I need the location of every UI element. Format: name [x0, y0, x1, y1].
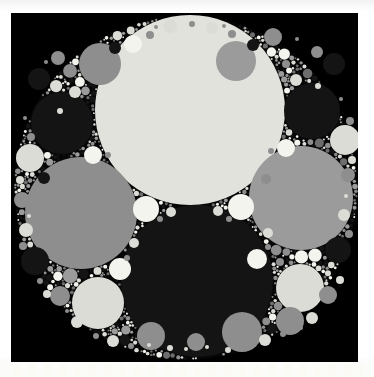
gasket-circle-small	[30, 172, 35, 177]
gasket-circle-small	[163, 352, 170, 359]
gasket-circle-small	[118, 328, 120, 330]
gasket-circle	[44, 60, 48, 64]
gasket-circle-small	[340, 121, 342, 123]
gasket-circle-small	[255, 229, 257, 231]
gasket-circle-small	[276, 66, 280, 70]
gasket-circle-small	[155, 19, 157, 21]
gasket-circle-small	[346, 164, 349, 167]
gasket-circle-small	[296, 135, 299, 138]
gasket-circle-small	[98, 141, 100, 143]
gasket-circle-small	[29, 141, 31, 143]
gasket-circle-small	[24, 143, 26, 145]
gasket-circle-small	[104, 337, 107, 340]
gasket-circle	[51, 51, 65, 65]
gasket-circle-small	[271, 334, 273, 336]
gasket-circle-small	[245, 187, 248, 190]
gasket-circle	[244, 344, 248, 348]
gasket-circle-small	[124, 308, 126, 310]
gasket-circle-small	[135, 226, 139, 230]
gasket-circle	[284, 83, 340, 139]
gasket-circle-small	[281, 76, 287, 82]
gasket-circle-small	[118, 283, 121, 286]
gasket-circle-small	[244, 27, 247, 30]
gasket-circle-small	[70, 309, 73, 312]
gasket-circle-small	[124, 346, 126, 348]
gasket-circle-small	[224, 206, 228, 210]
gasket-circle	[344, 194, 348, 198]
gasket-circle-small	[280, 59, 282, 61]
gasket-circle-small	[26, 184, 30, 188]
gasket-circle-small	[99, 145, 101, 147]
gasket-circle-small	[268, 308, 270, 310]
gasket-circle	[104, 236, 114, 246]
gasket-circle-small	[159, 201, 163, 205]
gasket-circle-small	[86, 96, 89, 99]
gasket-circle-small	[105, 275, 107, 277]
gasket-circle-small	[325, 143, 331, 149]
gasket-circle-small	[294, 261, 296, 263]
gasket-circle-small	[44, 152, 51, 159]
gasket-circle-small	[216, 203, 219, 206]
gasket-circle	[225, 347, 231, 353]
gasket-circle	[280, 331, 286, 337]
gasket-circle-small	[64, 79, 66, 81]
gasket-circle-small	[273, 276, 277, 280]
gasket-circle	[19, 223, 33, 237]
gasket-circle-small	[115, 323, 119, 327]
gasket-circle-small	[74, 76, 76, 78]
gasket-circle-small	[289, 137, 291, 139]
gasket-circle-small	[354, 189, 358, 193]
gasket-circle-small	[93, 123, 95, 125]
gasket-circle-small	[150, 350, 152, 352]
gasket-circle-small	[290, 64, 292, 66]
gasket-circle-small	[24, 176, 26, 178]
gasket-circle	[184, 347, 188, 351]
gasket-circle-small	[252, 221, 254, 223]
gasket-circle	[222, 24, 226, 28]
gasket-circle	[341, 168, 355, 182]
gasket-circle-small	[112, 325, 115, 328]
gasket-circle-small	[153, 353, 155, 355]
gasket-circle-small	[291, 135, 294, 138]
gasket-circle-small	[14, 187, 16, 189]
apollonian-gasket-figure	[11, 13, 358, 362]
gasket-circle-small	[15, 174, 17, 176]
gasket-circle-small	[282, 135, 286, 139]
gasket-circle-small	[94, 267, 102, 275]
gasket-circle-small	[284, 88, 290, 94]
gasket-circle-small	[54, 269, 57, 272]
gasket-circle-small	[267, 324, 277, 334]
gasket-circle-small	[328, 262, 335, 269]
gasket-circle-small	[62, 282, 65, 285]
gasket-circle	[93, 333, 99, 339]
gasket-circle	[338, 209, 350, 221]
gasket-circle-small	[20, 217, 22, 219]
gasket-circle-small	[195, 357, 197, 359]
gasket-circle-small	[354, 170, 356, 172]
gasket-circle-small	[306, 262, 309, 265]
gasket-circle-small	[38, 170, 41, 173]
gasket-circle-small	[156, 352, 162, 358]
gasket-circle-small	[252, 226, 254, 228]
gasket-circle-small	[17, 184, 20, 187]
gasket-circle-small	[119, 335, 130, 346]
gasket-circle-small	[79, 149, 81, 151]
gasket-circle-small	[25, 172, 29, 176]
gasket-circle-small	[271, 255, 274, 258]
gasket-circle-small	[110, 37, 113, 40]
gasket-circle-small	[141, 225, 144, 228]
gasket-circle-small	[250, 32, 255, 37]
gasket-circle	[38, 172, 50, 184]
gasket-circle-small	[51, 154, 53, 156]
gasket-circle-small	[63, 154, 65, 156]
gasket-circle	[276, 264, 324, 312]
gasket-circle	[27, 214, 31, 218]
gasket-circle-small	[353, 206, 357, 210]
gasket-circle-small	[353, 193, 355, 195]
gasket-circle-small	[316, 265, 322, 271]
gasket-circle-small	[19, 209, 25, 215]
gasket-circle-small	[41, 167, 45, 171]
gasket-circle-small	[325, 270, 331, 276]
gasket-circle-small	[93, 119, 95, 121]
gasket-circle-small	[94, 133, 97, 136]
